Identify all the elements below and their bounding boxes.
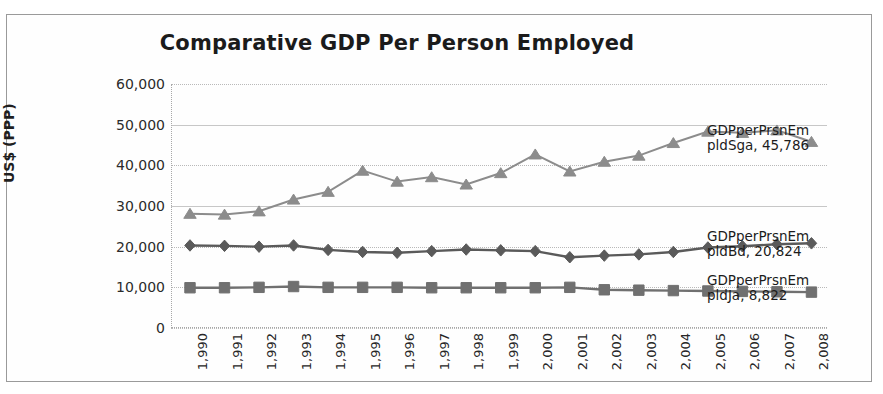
series-marker: [565, 282, 575, 292]
series-marker: [530, 283, 540, 293]
x-axis-tick-label: 1,993: [299, 333, 314, 370]
x-axis-tick-label: 1,991: [230, 333, 245, 370]
series-marker: [668, 285, 678, 295]
x-axis-tick-label: 1,994: [333, 333, 348, 370]
series-marker: [496, 283, 506, 293]
series-marker: [357, 246, 368, 258]
series-data-label-line1: GDPperPrsnEm: [707, 229, 809, 244]
series-marker: [392, 247, 403, 259]
x-axis-tick-label: 2,003: [644, 333, 659, 370]
series-marker: [357, 282, 367, 292]
series-marker: [323, 282, 333, 292]
series-marker: [530, 245, 541, 257]
series-marker: [461, 244, 472, 256]
series-marker: [323, 244, 334, 256]
series-data-label: GDPperPrsnEmpldJa, 8,822: [707, 273, 809, 303]
x-axis-tick-label: 2,000: [540, 333, 555, 370]
x-axis-tick-label: 2,006: [747, 333, 762, 370]
series-marker: [185, 240, 196, 252]
series-marker: [185, 283, 195, 293]
series-marker: [529, 149, 541, 159]
series-data-label: GDPperPrsnEmpldBd, 20,824: [707, 229, 809, 259]
series-marker: [426, 283, 436, 293]
series-marker: [599, 250, 610, 262]
x-axis-tick-label: 2,004: [678, 333, 693, 370]
x-axis-tick-label: 1,995: [368, 333, 383, 370]
series-marker: [461, 283, 471, 293]
series-marker: [356, 165, 368, 175]
x-axis-tick-label: 1,998: [471, 333, 486, 370]
series-marker: [392, 282, 402, 292]
x-axis-tick-label: 2,007: [782, 333, 797, 370]
series-data-label-line1: GDPperPrsnEm: [707, 123, 809, 138]
x-axis-tick-label: 1,996: [402, 333, 417, 370]
series-data-label-line2: pldSga, 45,786: [707, 138, 809, 153]
series-marker: [288, 281, 298, 291]
series-marker: [599, 285, 609, 295]
x-axis-tick-label: 2,005: [713, 333, 728, 370]
series-marker: [633, 150, 645, 160]
series-marker: [634, 285, 644, 295]
x-axis-tick-label: 1,990: [195, 333, 210, 370]
series-marker: [254, 241, 265, 253]
series-marker: [254, 282, 264, 292]
x-axis-tick-label: 1,999: [506, 333, 521, 370]
series-marker: [288, 240, 299, 252]
chart-card: Comparative GDP Per Person Employed US$ …: [6, 14, 872, 382]
series-marker: [219, 283, 229, 293]
x-axis-tick-label: 2,008: [816, 333, 831, 370]
series-marker: [634, 249, 645, 260]
series-marker: [322, 186, 334, 196]
series-marker: [426, 245, 436, 257]
x-axis-tick-label: 1,997: [437, 333, 452, 370]
x-axis-tick-label: 2,002: [609, 333, 624, 370]
series-data-label-line1: GDPperPrsnEm: [707, 273, 809, 288]
series-data-label: GDPperPrsnEmpldSga, 45,786: [707, 123, 809, 153]
series-marker: [565, 251, 576, 262]
series-data-label-line2: pldBd, 20,824: [707, 244, 809, 259]
series-marker: [219, 240, 230, 252]
series-marker: [495, 245, 506, 257]
x-axis-tick-labels: 1,9901,9911,9921,9931,9941,9951,9961,997…: [171, 333, 827, 394]
plot-wrapper: [7, 15, 871, 381]
x-axis-tick-label: 1,992: [264, 333, 279, 370]
series-marker: [668, 246, 679, 258]
series-marker: [495, 168, 507, 178]
series-data-label-line2: pldJa, 8,822: [707, 288, 809, 303]
gridline: [171, 328, 827, 329]
x-axis-tick-label: 2,001: [575, 333, 590, 370]
